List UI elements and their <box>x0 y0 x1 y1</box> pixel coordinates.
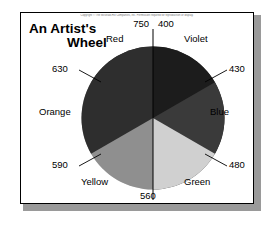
slice-label-yellow: Yellow <box>81 177 108 187</box>
wavelength-label-430: 430 <box>229 64 245 74</box>
wavelength-label-630: 630 <box>52 64 68 74</box>
slice-label-orange: Orange <box>39 107 71 117</box>
wavelength-label-750: 750 <box>125 19 149 29</box>
wavelength-label-400: 400 <box>158 19 174 29</box>
slice-label-violet: Violet <box>184 34 208 44</box>
slice-label-red: Red <box>106 34 123 44</box>
slice-label-blue: Blue <box>210 107 229 117</box>
wavelength-label-590: 590 <box>52 160 68 170</box>
slice-label-green: Green <box>184 177 210 187</box>
wavelength-label-560: 560 <box>140 191 156 201</box>
wavelength-label-480: 480 <box>229 160 245 170</box>
figure-screenshot: Copyright © The McGraw-Hill Companies, I… <box>0 0 276 225</box>
figure-frame: Copyright © The McGraw-Hill Companies, I… <box>20 12 254 204</box>
